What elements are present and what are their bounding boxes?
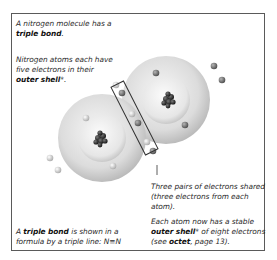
caption-formula: A triple bond is shown in a formula by a… bbox=[16, 227, 146, 247]
caption-outer-shell: Nitrogen atoms each have five electrons … bbox=[16, 55, 146, 85]
caption-shared-electrons: Three pairs of electrons shared (three e… bbox=[151, 182, 271, 212]
caption-stable-shell: Each atom now has a stable outer shell* … bbox=[151, 217, 271, 247]
caption-intro: A nitrogen molecule has a triple bond. bbox=[16, 19, 146, 39]
